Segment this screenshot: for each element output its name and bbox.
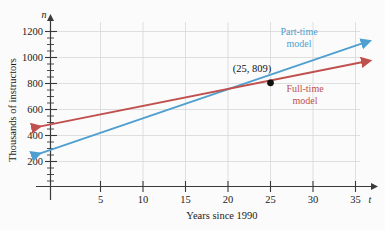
x-tick-label-5: 5	[98, 194, 103, 205]
series-label-full-time-line1: Full-time	[286, 83, 324, 94]
x-tick-label-10: 10	[138, 194, 149, 205]
intersection-point-marker	[267, 79, 274, 86]
x-tick-label-20: 20	[223, 194, 234, 205]
x-tick-label-30: 30	[308, 194, 319, 205]
y-axis-variable-label: n	[42, 9, 47, 20]
x-tick-label-15: 15	[180, 194, 191, 205]
x-axis-title: Years since 1990	[186, 210, 257, 221]
chart-canvas: 1200 1000 800 600 400 200 5 10 15 20 25 …	[0, 0, 385, 230]
series-label-part-time-line2: model	[287, 38, 312, 49]
y-axis-title: Thousands of instructors	[7, 58, 18, 162]
y-tick-label-800: 800	[27, 78, 43, 89]
y-tick-label-200: 200	[27, 156, 43, 167]
series-label-full-time-line2: model	[293, 95, 318, 106]
x-tick-label-25: 25	[265, 194, 276, 205]
x-axis-variable-label: t	[369, 194, 372, 205]
x-tick-label-35: 35	[350, 194, 361, 205]
intersection-point-label: (25, 809)	[233, 63, 272, 75]
y-tick-label-1200: 1200	[22, 26, 43, 37]
y-tick-label-400: 400	[27, 130, 43, 141]
chart-figure: 1200 1000 800 600 400 200 5 10 15 20 25 …	[0, 0, 385, 230]
y-tick-label-600: 600	[27, 104, 43, 115]
y-tick-label-1000: 1000	[22, 52, 43, 63]
series-label-part-time-line1: Part-time	[280, 26, 318, 37]
